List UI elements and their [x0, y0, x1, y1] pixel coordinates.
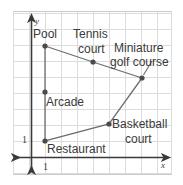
- label-tennis-court-line1: Tennis: [73, 28, 108, 40]
- label-basketball-court-line1: Basketball: [112, 118, 167, 130]
- label-arcade: Arcade: [46, 96, 84, 108]
- label-basketball-court-line2: court: [125, 133, 152, 145]
- vertex-pool: [42, 43, 47, 48]
- label-tennis-court-line2: court: [78, 43, 105, 55]
- x-axis-label: x: [161, 161, 165, 170]
- vertex-tennis-court: [90, 59, 95, 64]
- vertex-basketball-court: [106, 121, 111, 126]
- y-axis-tick-label: 1: [22, 135, 27, 145]
- label-restaurant: Restaurant: [47, 143, 106, 155]
- label-miniature-golf-course-line1: Miniature: [114, 42, 163, 54]
- x-axis-tick-label: 1: [43, 162, 48, 172]
- label-miniature-golf-course-line2: golf course: [110, 56, 169, 68]
- y-axis-label: y: [35, 17, 39, 26]
- label-pool: Pool: [33, 28, 57, 40]
- vertex-arcade: [42, 89, 47, 94]
- vertex-miniature-golf-course: [139, 75, 144, 80]
- figure-container: Pool Tennis court Miniature golf course …: [0, 0, 183, 185]
